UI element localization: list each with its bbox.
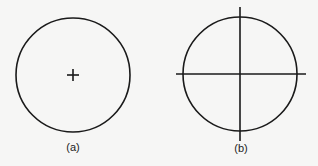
center-plus-icon [67,69,79,81]
caption-a: (a) [66,141,79,153]
panel-a [16,18,130,132]
panel-b [176,7,306,141]
caption-b: (b) [234,142,247,154]
diagram-figure: (a) (b) [0,0,318,166]
diagram-canvas [0,0,318,166]
